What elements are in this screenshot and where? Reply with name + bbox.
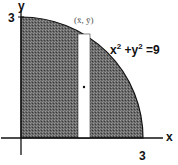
y-axis-label: y [18,0,25,12]
eq-plus-y: +y [121,43,138,57]
curve-equation: x2 +y2 =9 [110,44,160,56]
x-tick-label: 3 [139,150,146,162]
centroid-label: (x̄, ȳ) [74,15,94,25]
eq-rhs: =9 [143,43,160,57]
y-tick-label: 3 [8,12,15,24]
quarter-circle-figure: y 3 x 3 (x̄, ȳ) x2 +y2 =9 [0,0,178,165]
eq-x: x [110,43,117,57]
centroid-dot [83,86,85,88]
x-axis-label: x [166,131,173,143]
